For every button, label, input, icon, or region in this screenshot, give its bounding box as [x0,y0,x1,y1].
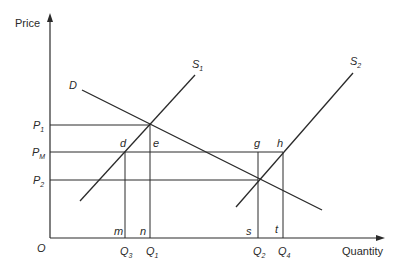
p1-label: P1 [33,119,44,133]
point-e-label: e [153,137,159,149]
q1-label: Q1 [146,245,159,259]
supply-demand-diagram: Price Quantity O D S1 S2 P1 PM P2 Q3 Q1 … [0,0,401,272]
y-axis-arrow-icon [47,13,53,22]
demand-label: D [69,79,77,91]
point-m-label: m [114,225,123,237]
x-axis-label: Quantity [342,245,383,257]
supply1-label: S1 [192,58,203,72]
supply2-label: S2 [350,55,361,69]
x-axis-arrow-icon [376,235,385,241]
y-axis-label: Price [15,17,40,29]
q2-label: Q2 [253,245,266,259]
point-d-label: d [120,137,127,149]
origin-label: O [37,242,46,254]
p2-label: P2 [33,174,44,188]
point-s-label: s [246,225,252,237]
point-h-label: h [277,137,283,149]
point-t-label: t [275,223,279,235]
q3-label: Q3 [120,245,133,259]
pm-label: PM [32,146,45,160]
point-g-label: g [254,137,261,149]
q4-label: Q4 [278,245,291,259]
point-n-label: n [140,225,146,237]
